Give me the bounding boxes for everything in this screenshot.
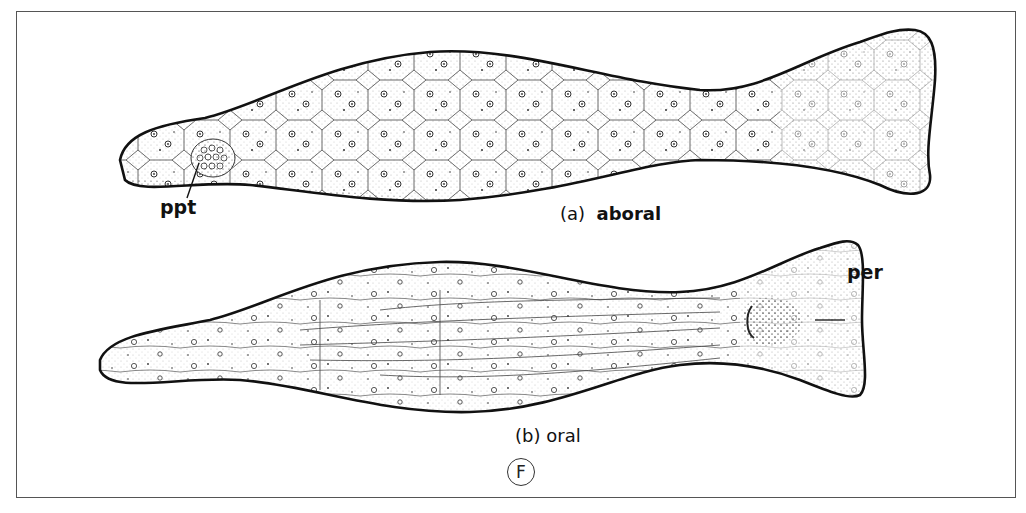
panel-b-caption: (b) oral: [515, 425, 581, 446]
panel-a-prefix: (a): [560, 203, 585, 224]
figure-drawing: [0, 0, 1026, 513]
panel-a-caption: (a) aboral: [560, 203, 661, 224]
panel-a-caption-text: aboral: [597, 203, 662, 224]
per-label: per: [847, 261, 883, 283]
panel-b-caption-text: oral: [546, 425, 580, 446]
figure-id-label: F: [516, 462, 526, 482]
ppt-structure: [191, 139, 235, 177]
figure-id-badge: F: [507, 458, 535, 486]
panel-a-specimen: [110, 25, 940, 210]
ppt-label: ppt: [160, 196, 196, 218]
panel-b-specimen: [95, 235, 875, 420]
panel-b-prefix: (b): [515, 425, 540, 446]
